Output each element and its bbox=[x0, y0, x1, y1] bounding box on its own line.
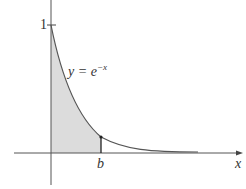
x-axis-arrow-icon bbox=[236, 151, 243, 156]
exponential-area-figure: 1 y = e−x b x bbox=[0, 0, 246, 189]
curve-label-base: y = e bbox=[68, 64, 97, 79]
curve-label: y = e−x bbox=[68, 63, 107, 79]
b-label: b bbox=[97, 157, 104, 171]
x-axis-label: x bbox=[235, 157, 241, 171]
y-tick-label: 1 bbox=[40, 18, 47, 32]
shaded-area bbox=[51, 25, 101, 153]
b-point bbox=[99, 135, 102, 138]
curve-label-exponent: −x bbox=[97, 62, 107, 72]
plot bbox=[0, 0, 246, 189]
